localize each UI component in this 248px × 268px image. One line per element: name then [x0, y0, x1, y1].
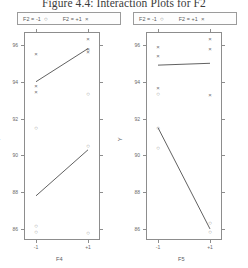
interaction-plot-f5: 868890929496-1+1F5Y××××××○○○○○ — [0, 0, 248, 268]
trend-line — [158, 128, 210, 229]
trend-lines — [0, 0, 248, 268]
trend-line — [158, 63, 210, 65]
figure-container: Figure 4.4: Interaction Plots for F2 F2 … — [0, 0, 248, 268]
